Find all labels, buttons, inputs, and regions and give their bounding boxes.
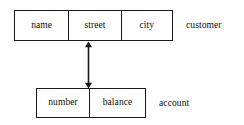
er-diagram-canvas: name street city customer number balance… (0, 0, 244, 125)
attribute-cell-number[interactable]: number (37, 89, 89, 117)
double-headed-arrow-icon (84, 41, 93, 89)
attribute-cell-name[interactable]: name (15, 11, 68, 40)
entity-label-customer: customer (186, 21, 222, 31)
arrowhead-up-icon (85, 42, 92, 48)
entity-box-customer[interactable]: name street city (14, 10, 173, 41)
attribute-cell-street[interactable]: street (68, 11, 120, 40)
attribute-cell-city[interactable]: city (121, 11, 172, 40)
attribute-cell-balance[interactable]: balance (89, 89, 145, 117)
entity-label-account: account (159, 99, 189, 109)
entity-box-account[interactable]: number balance (36, 88, 146, 118)
